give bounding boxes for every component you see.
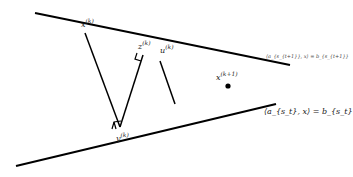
label-x-k: x(k) [81, 18, 94, 29]
label-x-k-plus-1: x(k+1) [216, 71, 238, 82]
segment-uk-proj [160, 61, 175, 104]
label-x-k1-sup: (k+1) [221, 70, 238, 77]
segment-yk-zk [120, 55, 143, 127]
upper-hyperplane-line [35, 13, 290, 65]
label-upper-hyperplane-equation: ⟨a_{s_{t+1}}, x⟩ = b_{s_{t+1}} [266, 54, 349, 59]
lower-hyperplane-line [16, 104, 276, 166]
label-z-k-sup: (k) [142, 39, 150, 46]
label-u-k: u(k) [160, 44, 173, 55]
intersection-point-xk1 [225, 83, 230, 88]
segment-xk-yk [85, 33, 120, 127]
label-z-k: z(k) [138, 40, 151, 51]
label-x-k-sup: (k) [86, 17, 94, 24]
label-y-k-sup: (k) [121, 131, 129, 138]
label-lower-hyperplane-equation: ⟨a_{s_t}, x⟩ = b_{s_t} [264, 108, 353, 116]
right-angle-marker-zk [135, 53, 141, 61]
label-y-k: y(k) [116, 132, 129, 143]
label-u-k-sup: (k) [165, 43, 173, 50]
